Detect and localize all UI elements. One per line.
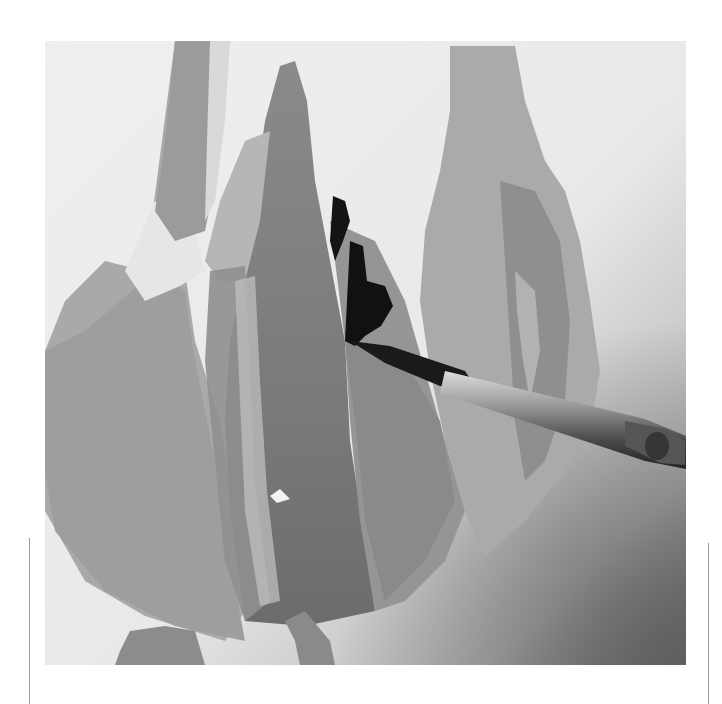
tulip-painting xyxy=(45,41,686,665)
watercolor-photo xyxy=(45,41,686,665)
margin-rule-left xyxy=(29,538,30,704)
margin-rule-right xyxy=(708,543,709,704)
